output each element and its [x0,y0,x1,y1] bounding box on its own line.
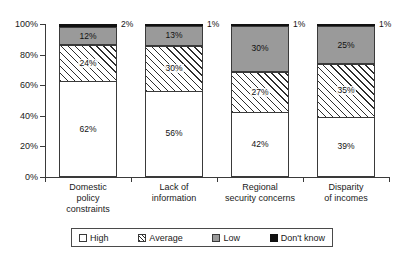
category-label-lack-of-information: Lack of information [126,182,222,204]
category-label-line: Disparity [298,182,394,193]
hatched-square-icon [138,234,146,242]
bar-segment-dont-know[interactable]: 1% [231,24,289,26]
bar-segment-dont-know[interactable]: 1% [317,24,375,26]
bar-segment-high[interactable]: 62% [59,82,117,177]
bar-segment-label-low: 25% [337,41,354,50]
bar-segment-low[interactable]: 13% [145,26,203,46]
bar-segment-average[interactable]: 35% [317,64,375,117]
bar-segment-average[interactable]: 30% [145,46,203,92]
black-square-icon [270,234,278,242]
y-tick-20 [40,146,45,147]
legend-item-dont-know[interactable]: Don't know [270,233,325,243]
legend-label-average: Average [149,233,182,243]
stacked-bar-chart: 0% 20% 40% 60% 80% 100% 62% 24% 12% 2% 2… [0,0,403,259]
legend-item-high[interactable]: High [79,233,109,243]
legend-item-low[interactable]: Low [212,233,240,243]
y-tick-60 [40,85,45,86]
bar-regional-security-concerns[interactable]: 42% 27% 30% 1% [231,24,289,177]
bar-segment-dont-know[interactable]: 2% [59,24,117,27]
outside-label-dont-know-1: 1% [207,20,219,29]
legend-label-dont-know: Don't know [281,233,325,243]
bar-lack-of-information[interactable]: 56% 30% 13% 1% [145,24,203,177]
bar-segment-label-low: 13% [165,31,182,40]
category-label-disparity-of-incomes: Disparity of incomes [298,182,394,204]
bar-segment-average[interactable]: 27% [231,72,289,113]
bar-segment-label-average: 24% [78,59,97,68]
y-tick-label-100: 100% [0,20,38,29]
category-label-domestic-policy-constraints: Domestic policy constraints [40,182,136,215]
bar-domestic-policy-constraints[interactable]: 62% 24% 12% 2% [59,24,117,177]
outside-label-dont-know-3: 1% [379,20,391,29]
bar-segment-label-high: 39% [337,142,354,151]
bar-segment-label-average: 35% [336,86,355,95]
category-label-line: of incomes [298,193,394,204]
outside-label-dont-know-2: 1% [293,20,305,29]
bar-segment-label-high: 62% [79,125,96,134]
legend-label-high: High [90,233,109,243]
gray-square-icon [212,234,220,242]
bar-segment-low[interactable]: 12% [59,27,117,45]
category-label-line: security concerns [212,193,308,204]
legend-label-low: Low [223,233,240,243]
bar-segment-low[interactable]: 30% [231,26,289,72]
bar-segment-average[interactable]: 24% [59,45,117,82]
category-label-line: Domestic [40,182,136,193]
category-label-line: Lack of [126,182,222,193]
bar-segment-high[interactable]: 42% [231,113,289,177]
y-tick-label-0: 0% [0,173,38,182]
category-label-line: information [126,193,222,204]
legend-item-average[interactable]: Average [138,233,182,243]
bar-segment-high[interactable]: 56% [145,92,203,177]
bar-segment-label-average: 30% [164,64,183,73]
bar-segment-low[interactable]: 25% [317,26,375,64]
y-tick-label-80: 80% [0,51,38,60]
bar-segment-label-high: 42% [251,140,268,149]
bar-segment-dont-know[interactable]: 1% [145,24,203,26]
category-label-line: constraints [40,204,136,215]
y-tick-80 [40,55,45,56]
y-tick-100 [40,24,45,25]
outside-label-dont-know-0: 2% [121,20,133,29]
bar-segment-label-average: 27% [250,88,269,97]
chart-legend: High Average Low Don't know [71,228,333,247]
bar-segment-label-high: 56% [165,129,182,138]
y-axis-line [45,24,46,178]
y-tick-label-40: 40% [0,112,38,121]
bar-segment-label-low: 30% [251,44,268,53]
category-label-line: Regional [212,182,308,193]
white-square-icon [79,234,87,242]
category-label-regional-security-concerns: Regional security concerns [212,182,308,204]
category-label-line: policy [40,193,136,204]
bar-disparity-of-incomes[interactable]: 39% 35% 25% 1% [317,24,375,177]
bar-segment-label-low: 12% [79,32,96,41]
y-tick-40 [40,116,45,117]
bar-segment-high[interactable]: 39% [317,118,375,177]
y-tick-label-60: 60% [0,81,38,90]
y-tick-label-20: 20% [0,142,38,151]
